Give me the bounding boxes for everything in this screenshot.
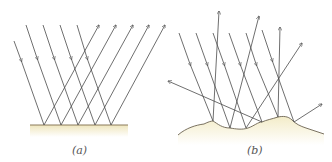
smooth-surface-fill bbox=[30, 125, 128, 137]
reflected-ray bbox=[246, 43, 302, 128]
incident-ray bbox=[213, 33, 246, 128]
reflected-ray bbox=[213, 11, 219, 121]
reflected-ray bbox=[95, 25, 149, 125]
panel-b-label: (b) bbox=[247, 144, 263, 157]
reflected-ray bbox=[278, 27, 280, 117]
incident-ray bbox=[229, 33, 262, 122]
reflected-ray bbox=[230, 16, 259, 128]
reflected-ray bbox=[294, 104, 322, 122]
reflection-diagram: (a) (b) bbox=[0, 0, 332, 162]
reflected-ray bbox=[44, 25, 99, 125]
incident-ray bbox=[43, 25, 78, 125]
reflected-ray bbox=[111, 25, 165, 125]
incident-ray bbox=[179, 33, 213, 121]
incident-ray bbox=[26, 25, 61, 125]
panel-a: (a) bbox=[14, 25, 165, 157]
panel-a-label: (a) bbox=[72, 144, 87, 157]
panel-b: (b) bbox=[168, 11, 324, 157]
reflected-ray bbox=[61, 25, 116, 125]
incident-ray bbox=[60, 25, 95, 125]
incident-ray bbox=[14, 41, 44, 125]
